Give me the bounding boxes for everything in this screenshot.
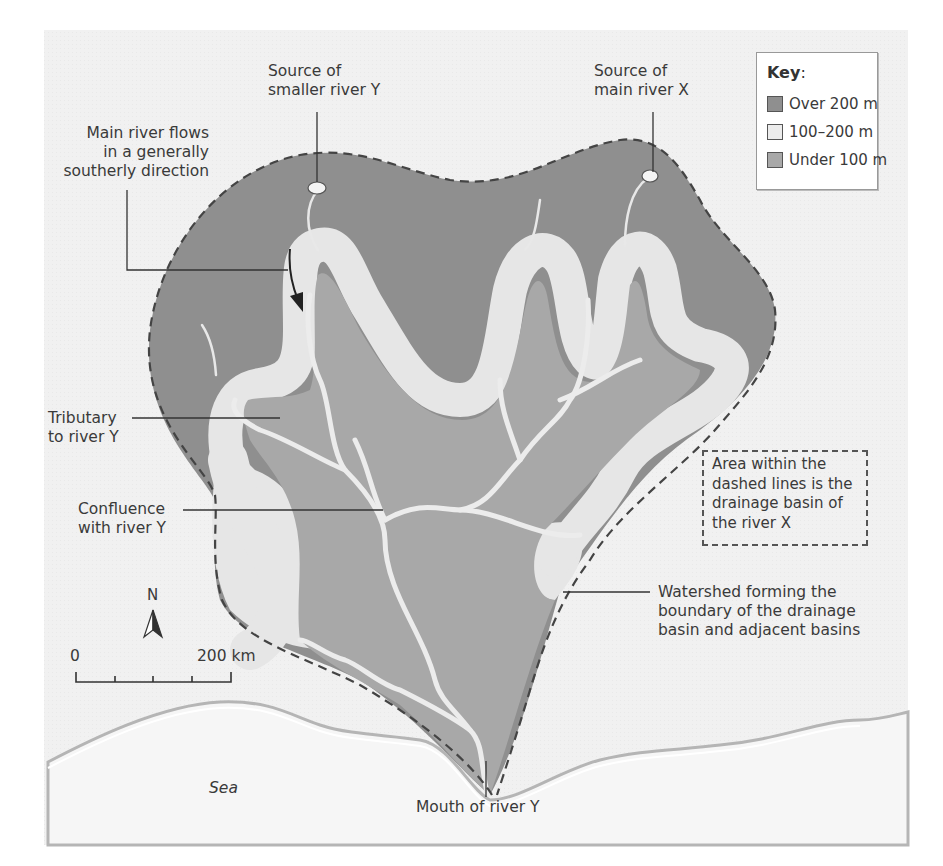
source-river-x-icon [642,170,658,182]
label-tributary: Tributary to river Y [48,409,119,447]
drainage-basin-note: Area within the dashed lines is the drai… [702,450,868,546]
key-item-over-200m: Over 200 m [767,95,878,113]
label-watershed: Watershed forming the boundary of the dr… [658,583,860,640]
scale-start-label: 0 [70,647,80,666]
key-title: Key: [767,63,806,82]
label-source-river-y: Source of smaller river Y [268,62,380,100]
swatch-under-100m [767,152,783,168]
source-river-y-icon [308,182,326,194]
swatch-over-200m [767,96,783,112]
key-item-100-200m: 100–200 m [767,123,873,141]
map-key: Key: Over 200 m 100–200 m Under 100 m [756,52,878,190]
label-confluence: Confluence with river Y [78,500,166,538]
label-mouth-river-y: Mouth of river Y [416,798,540,817]
label-sea: Sea [209,779,238,798]
compass-north-label: N [147,586,158,605]
label-main-river-flow: Main river flows in a generally southerl… [55,124,209,181]
scale-end-label: 200 km [197,647,256,666]
key-item-under-100m: Under 100 m [767,151,887,169]
label-source-river-x: Source of main river X [594,62,689,100]
swatch-100-200m [767,124,783,140]
